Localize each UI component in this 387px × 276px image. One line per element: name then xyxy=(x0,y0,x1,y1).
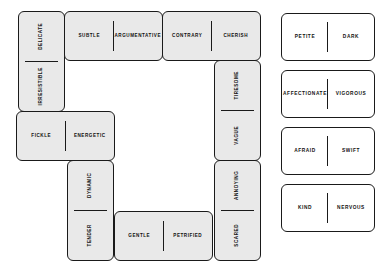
domino-word: PETITE xyxy=(295,35,315,40)
domino-half-right: CHERISH xyxy=(212,12,261,60)
domino-tile-dynamic-tender[interactable]: DYNAMIC TENDER xyxy=(67,160,114,261)
domino-half-right: NERVOUS xyxy=(328,185,374,231)
domino-half-bottom: SCARED xyxy=(215,211,260,261)
domino-half-left: KIND xyxy=(282,185,328,231)
domino-half-right: VIGOROUS xyxy=(328,71,374,117)
domino-tile-afraid-swift[interactable]: AFRAID SWIFT xyxy=(281,127,375,175)
domino-half-left: SUBTLE xyxy=(65,12,114,60)
domino-half-left: PETITE xyxy=(282,14,328,60)
domino-half-left: FICKLE xyxy=(17,112,66,160)
domino-half-left: CONTRARY xyxy=(163,12,212,60)
domino-half-left: AFFECTIONATE xyxy=(282,71,328,117)
domino-tile-affectionate-vigorous[interactable]: AFFECTIONATE VIGOROUS xyxy=(281,70,375,118)
domino-word: ARGUMENTATIVE xyxy=(114,34,161,39)
domino-tile-contrary-cherish[interactable]: CONTRARY CHERISH xyxy=(162,11,261,61)
domino-word: SWIFT xyxy=(342,149,360,154)
domino-puzzle-board: DELICATE IRRESISTIBLE SUBTLE ARGUMENTATI… xyxy=(0,0,387,276)
domino-tile-tiresome-vague[interactable]: TIRESOME VAGUE xyxy=(214,60,261,161)
domino-word: SUBTLE xyxy=(78,34,100,39)
domino-word: AFRAID xyxy=(294,149,316,154)
domino-word: KIND xyxy=(298,206,312,211)
domino-word: AFFECTIONATE xyxy=(283,92,327,97)
domino-half-top: TIRESOME xyxy=(215,61,260,111)
domino-word: CONTRARY xyxy=(172,34,202,39)
domino-word: TIRESOME xyxy=(235,72,240,100)
domino-tile-delicate-irresistible[interactable]: DELICATE IRRESISTIBLE xyxy=(18,11,65,112)
domino-half-right: DARK xyxy=(328,14,374,60)
domino-half-right: ENERGETIC xyxy=(66,112,115,160)
domino-half-bottom: IRRESISTIBLE xyxy=(19,62,64,112)
domino-word: SCARED xyxy=(235,224,240,247)
domino-word: NERVOUS xyxy=(337,206,365,211)
domino-half-right: SWIFT xyxy=(328,128,374,174)
domino-word: ENERGETIC xyxy=(74,134,106,139)
domino-word: DELICATE xyxy=(39,23,44,50)
domino-word: ANNOYING xyxy=(235,171,240,200)
domino-word: GENTLE xyxy=(128,234,150,239)
domino-half-right: PETRIFIED xyxy=(164,212,213,260)
domino-half-left: AFRAID xyxy=(282,128,328,174)
domino-word: DYNAMIC xyxy=(88,173,93,198)
domino-word: VAGUE xyxy=(235,126,240,145)
domino-word: FICKLE xyxy=(31,134,51,139)
domino-word: TENDER xyxy=(88,224,93,246)
domino-tile-gentle-petrified[interactable]: GENTLE PETRIFIED xyxy=(114,211,213,261)
domino-word: VIGOROUS xyxy=(336,92,367,97)
domino-tile-petite-dark[interactable]: PETITE DARK xyxy=(281,13,375,61)
domino-half-bottom: VAGUE xyxy=(215,111,260,161)
domino-tile-kind-nervous[interactable]: KIND NERVOUS xyxy=(281,184,375,232)
domino-half-bottom: TENDER xyxy=(68,211,113,261)
domino-tile-fickle-energetic[interactable]: FICKLE ENERGETIC xyxy=(16,111,115,161)
domino-word: DARK xyxy=(343,35,359,40)
domino-word: CHERISH xyxy=(223,34,248,39)
domino-half-top: DYNAMIC xyxy=(68,161,113,211)
domino-half-right: ARGUMENTATIVE xyxy=(114,12,163,60)
domino-half-top: DELICATE xyxy=(19,12,64,62)
domino-tile-subtle-argumentative[interactable]: SUBTLE ARGUMENTATIVE xyxy=(64,11,163,61)
domino-tile-annoying-scared[interactable]: ANNOYING SCARED xyxy=(214,160,261,261)
domino-half-left: GENTLE xyxy=(115,212,164,260)
domino-word: IRRESISTIBLE xyxy=(39,67,44,105)
domino-half-top: ANNOYING xyxy=(215,161,260,211)
domino-word: PETRIFIED xyxy=(173,234,202,239)
